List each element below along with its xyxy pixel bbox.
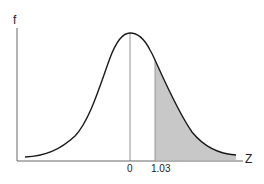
density-curve [25, 33, 236, 157]
x-axis-label: Z [245, 152, 252, 166]
tick-label-cutoff: 1.03 [151, 163, 171, 174]
tick-label-zero: 0 [127, 163, 133, 174]
y-axis-label: f [13, 13, 17, 27]
shaded-tail-area [155, 60, 236, 160]
normal-distribution-chart: f Z 0 1.03 [0, 0, 264, 184]
